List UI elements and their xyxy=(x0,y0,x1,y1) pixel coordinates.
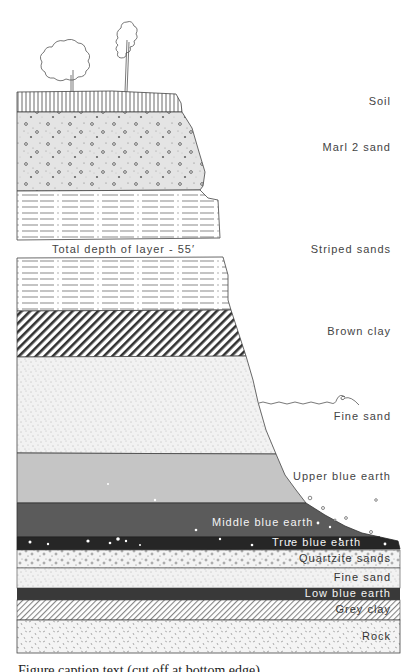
label-soil: Soil xyxy=(369,95,391,107)
label-low-blue-earth: Low blue earth xyxy=(305,587,391,599)
layer-rock xyxy=(17,620,400,653)
figure-caption-cutoff: Figure caption text (cut off at bottom e… xyxy=(0,663,416,672)
label-upper-blue-earth: Upper blue earth xyxy=(293,470,391,482)
layer-marl-2-sand xyxy=(17,112,205,191)
label-marl-2-sand: Marl 2 sand xyxy=(323,141,391,153)
depth-annotation: Total depth of layer - 55′ xyxy=(52,243,195,255)
layer-striped-sands-lower xyxy=(17,257,231,311)
layer-brown-clay xyxy=(17,310,246,357)
label-brown-clay: Brown clay xyxy=(327,325,391,337)
tree-icon xyxy=(40,39,89,95)
label-rock: Rock xyxy=(362,630,391,642)
layer-upper-blue-earth xyxy=(17,453,306,503)
label-striped-sands: Striped sands xyxy=(311,243,391,255)
label-fine-sand-lower: Fine sand xyxy=(334,571,391,583)
layer-striped-sands-upper xyxy=(17,190,220,240)
water-line-icon xyxy=(259,395,359,405)
label-fine-sand: Fine sand xyxy=(334,410,391,422)
label-grey-clay: Grey clay xyxy=(336,603,391,615)
layer-middle-blue-earth xyxy=(17,503,380,537)
label-middle-blue-earth: Middle blue earth xyxy=(212,516,313,528)
pine-tree-icon xyxy=(116,22,137,93)
layer-fine-sand xyxy=(17,356,276,454)
label-true-blue-earth: True blue earth xyxy=(272,536,361,548)
label-quartzite-sands: Quartzite sands xyxy=(299,552,391,564)
layer-soil xyxy=(17,91,182,112)
